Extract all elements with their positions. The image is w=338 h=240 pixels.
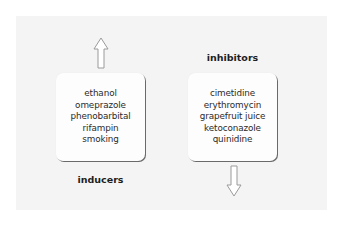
- inhibitor-item: cimetidine: [210, 88, 255, 100]
- inhibitor-item: quinidine: [213, 134, 253, 146]
- inducers-label: inducers: [56, 174, 145, 185]
- up-arrow-icon: [93, 37, 109, 69]
- inducer-item: rifampin: [83, 123, 119, 135]
- inducer-item: ethanol: [84, 88, 117, 100]
- inducer-item: phenobarbital: [70, 111, 130, 123]
- inhibitors-label: inhibitors: [188, 52, 277, 63]
- inhibitor-item: ketoconazole: [204, 123, 261, 135]
- inhibitor-item: erythromycin: [204, 100, 262, 112]
- inducer-item: omeprazole: [75, 100, 126, 112]
- down-arrow-icon: [226, 165, 242, 197]
- inhibitors-box: cimetidine erythromycin grapefruit juice…: [188, 73, 277, 161]
- inducer-item: smoking: [82, 134, 119, 146]
- inducers-box: ethanol omeprazole phenobarbital rifampi…: [56, 73, 145, 161]
- inhibitor-item: grapefruit juice: [200, 111, 266, 123]
